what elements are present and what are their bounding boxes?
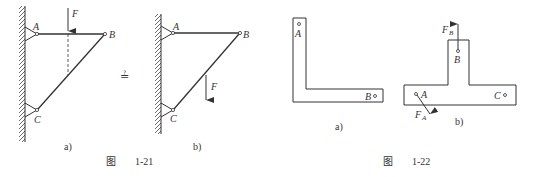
point-label-b: B bbox=[243, 29, 249, 40]
point-label-b: B bbox=[454, 54, 460, 65]
figure-caption-number: 1-22 bbox=[412, 156, 430, 167]
force-fa-label: F bbox=[414, 109, 422, 120]
question-equals-symbol: ≟ bbox=[120, 70, 129, 82]
point-c-marker bbox=[504, 94, 507, 97]
figure-1-22-panel-b: B F B A F A C b) bbox=[404, 24, 516, 128]
pin-b bbox=[103, 32, 106, 35]
figure-caption-number: 1-21 bbox=[135, 156, 153, 167]
point-label-a: A bbox=[294, 28, 302, 39]
panel-label: a) bbox=[335, 121, 343, 133]
force-fb-label: F bbox=[441, 24, 449, 35]
figure-caption-prefix: 图 bbox=[106, 156, 116, 167]
force-fa-subscript: A bbox=[421, 114, 427, 122]
point-label-b: B bbox=[109, 29, 115, 40]
wall-hatch bbox=[155, 14, 161, 134]
force-label: F bbox=[71, 8, 79, 19]
point-label-a: A bbox=[420, 89, 428, 100]
figure-1-21-panel-b: F A B C b) bbox=[155, 14, 249, 153]
force-fb-subscript: B bbox=[449, 29, 454, 37]
panel-label: b) bbox=[455, 116, 463, 128]
point-a-marker bbox=[298, 23, 301, 26]
point-label-c: C bbox=[494, 90, 501, 101]
point-label-c: C bbox=[170, 113, 177, 124]
figure-caption-prefix: 图 bbox=[383, 156, 393, 167]
bar-cb bbox=[38, 35, 104, 109]
point-b-marker bbox=[374, 95, 377, 98]
pin-b bbox=[238, 31, 241, 34]
point-label-a: A bbox=[32, 21, 40, 32]
panel-label: b) bbox=[193, 141, 201, 153]
l-shaped-body bbox=[293, 18, 383, 102]
figure-1-22-panel-a: A B a) bbox=[293, 18, 383, 133]
figures-canvas: F A B C a) ≟ F A B C b) 图 1-21 bbox=[0, 0, 534, 177]
point-label-a: A bbox=[172, 21, 180, 32]
force-label: F bbox=[210, 81, 218, 92]
wall-hatch bbox=[19, 6, 25, 142]
panel-label: a) bbox=[64, 141, 72, 153]
figure-1-21-panel-a: F A B C a) bbox=[19, 6, 115, 153]
point-label-c: C bbox=[34, 114, 41, 125]
point-label-b: B bbox=[365, 91, 371, 102]
